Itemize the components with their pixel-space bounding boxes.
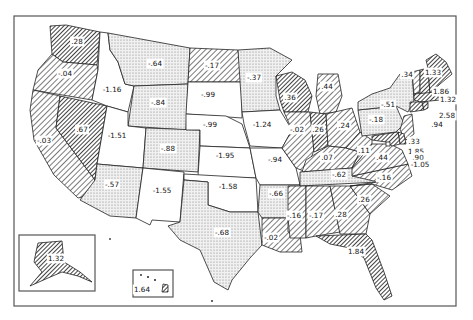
value-label-GA: .28 (335, 210, 347, 219)
value-label-IA: -1.24 (253, 120, 272, 129)
value-label-AL: -.17 (309, 211, 323, 220)
value-label-MN: -.37 (247, 73, 261, 82)
value-label-AR: -.66 (269, 189, 283, 198)
states-layer (30, 25, 452, 300)
value-label-VT: .34 (401, 70, 413, 79)
value-label-MT: -.64 (148, 59, 162, 68)
value-label-HI: 1.64 (134, 285, 150, 294)
value-label-WV: .11 (358, 146, 369, 155)
value-label-RI: 2.58 (439, 111, 455, 120)
value-label-WI: .36 (284, 93, 296, 102)
value-label-UT: -1.51 (108, 131, 127, 140)
state-FL (316, 234, 392, 300)
value-label-DC: -1.05 (411, 160, 430, 169)
value-label-FL: 1.84 (348, 247, 364, 256)
value-label-NC: -.16 (377, 173, 391, 182)
value-label-IN: .26 (312, 125, 324, 134)
value-label-TN: -.62 (332, 170, 346, 179)
value-label-OH: .24 (338, 121, 350, 130)
state-NM (136, 168, 184, 225)
value-label-AK: 1.32 (48, 254, 64, 263)
value-label-KS: -1.95 (216, 151, 235, 160)
value-label-NM: -1.55 (153, 186, 172, 195)
value-label-KY: .07 (321, 153, 332, 162)
value-label-PA: -.18 (369, 115, 383, 124)
value-label-CO: -.88 (161, 144, 175, 153)
value-label-OR: -.04 (58, 69, 72, 78)
value-label-ME: 1.33 (425, 68, 441, 77)
value-label-MA: 1.32 (440, 95, 456, 104)
value-label-ND: -.17 (205, 61, 219, 70)
value-label-WY: -.84 (151, 98, 165, 107)
state-CT (410, 102, 424, 112)
value-label-LA: -.02 (264, 233, 278, 242)
value-label-AZ: -.57 (105, 180, 119, 189)
value-label-MI: .44 (321, 82, 333, 91)
state-WI (276, 72, 312, 112)
value-label-IL: -.02 (290, 125, 304, 134)
value-label-SC: .26 (358, 195, 370, 204)
value-label-MS: -.16 (287, 211, 301, 220)
value-label-MO: -.94 (268, 155, 282, 164)
value-label-CA: -.03 (37, 136, 51, 145)
value-label-CT: .94 (431, 120, 443, 129)
value-label-NJ: .33 (408, 137, 419, 146)
value-label-OK: -1.58 (219, 182, 238, 191)
state-HI (162, 284, 168, 292)
value-label-NE: -.99 (203, 120, 217, 129)
value-label-TX: -.68 (215, 228, 229, 237)
value-label-VA: .44 (376, 153, 388, 162)
state-MI (316, 74, 342, 114)
us-state-choropleth-map: .28-.04-.03.67-1.16-.64-.84-1.51-.57-.88… (0, 0, 473, 320)
state-AK (30, 241, 92, 286)
value-label-ID: -1.16 (103, 85, 122, 94)
state-SD (186, 82, 242, 118)
value-label-SD: -.99 (201, 90, 215, 99)
value-label-NY: -.51 (381, 100, 395, 109)
state-DC (386, 142, 390, 146)
value-label-WA: .28 (71, 37, 83, 46)
value-label-NV: .67 (76, 125, 87, 134)
